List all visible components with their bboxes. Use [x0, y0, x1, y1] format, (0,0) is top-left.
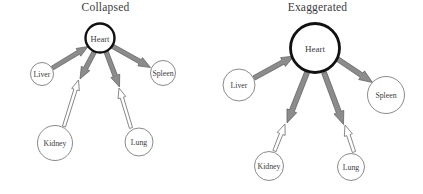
node-label-kidney: Kidney	[44, 139, 67, 148]
node-label-liver: Liver	[34, 70, 51, 79]
node-kidney[interactable]: Kidney	[255, 152, 284, 181]
node-label-heart: Heart	[305, 44, 325, 54]
node-label-spleen: Spleen	[152, 69, 173, 78]
node-label-spleen: Spleen	[375, 91, 396, 100]
edge-arrow-heart-kidney	[287, 72, 309, 123]
edge-arrow-kidney-heart	[62, 80, 79, 127]
edge-arrow-heart-spleen	[335, 56, 373, 82]
diagram-collapsed: LiverSpleenKidneyLungHeart	[0, 0, 211, 194]
edge-arrow-heart-lung	[322, 72, 344, 125]
node-lung[interactable]: Lung	[125, 128, 153, 156]
node-spleen[interactable]: Spleen	[151, 61, 176, 86]
node-heart[interactable]: Heart	[86, 24, 115, 53]
edge-arrow-heart-kidney	[80, 50, 96, 79]
node-label-liver: Liver	[231, 81, 248, 90]
node-kidney[interactable]: Kidney	[38, 126, 73, 161]
node-label-heart: Heart	[91, 34, 111, 44]
node-label-lung: Lung	[343, 163, 360, 172]
panel-collapsed: Collapsed LiverSpleenKidneyLungHeart	[0, 0, 211, 194]
node-heart[interactable]: Heart	[291, 24, 340, 73]
edge-arrow-kidney-heart	[273, 124, 285, 152]
node-liver[interactable]: Liver	[223, 69, 255, 101]
node-label-kidney: Kidney	[258, 162, 281, 171]
diagram-exaggerated: LiverSpleenKidneyLungHeart	[212, 0, 423, 194]
edge-arrow-lung-heart	[344, 125, 355, 153]
node-spleen[interactable]: Spleen	[368, 77, 405, 114]
node-lung[interactable]: Lung	[338, 154, 365, 181]
edge-arrow-heart-lung	[104, 51, 120, 87]
edge-arrow-heart-spleen	[111, 44, 151, 67]
node-label-lung: Lung	[131, 138, 148, 147]
edge-arrow-liver-heart	[253, 56, 294, 80]
edge-arrow-lung-heart	[118, 88, 132, 128]
node-liver[interactable]: Liver	[31, 63, 54, 86]
figure-container: Collapsed LiverSpleenKidneyLungHeart Exa…	[0, 0, 423, 194]
panel-exaggerated: Exaggerated LiverSpleenKidneyLungHeart	[212, 0, 423, 194]
edge-arrow-liver-heart	[51, 47, 88, 70]
